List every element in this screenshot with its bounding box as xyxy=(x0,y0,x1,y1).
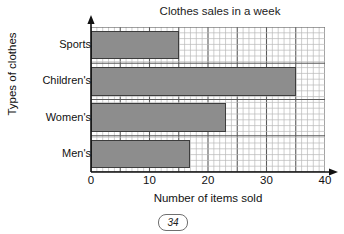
x-tick-0: 0 xyxy=(76,174,106,186)
bar-men-s xyxy=(91,140,190,168)
bar-children-s xyxy=(91,67,296,95)
x-tick-20: 20 xyxy=(193,174,223,186)
page-number-badge: 34 xyxy=(158,214,188,231)
plot-area xyxy=(91,27,325,172)
x-axis-label: Number of items sold xyxy=(72,192,344,204)
x-tick-30: 30 xyxy=(252,174,282,186)
y-tick-men-s: Men's xyxy=(62,147,91,159)
x-tick-10: 10 xyxy=(135,174,165,186)
y-tick-children-s: Children's xyxy=(42,74,91,86)
chart-title: Clothes sales in a week xyxy=(120,5,320,17)
y-axis-label: Types of clothes xyxy=(6,9,18,139)
bar-sports xyxy=(91,31,179,59)
bar-chart-figure: Clothes sales in a week 010203040 Sports… xyxy=(0,0,344,234)
bar-women-s xyxy=(91,103,226,131)
y-tick-women-s: Women's xyxy=(46,111,91,123)
x-tick-40: 40 xyxy=(310,174,340,186)
y-tick-sports: Sports xyxy=(59,38,91,50)
